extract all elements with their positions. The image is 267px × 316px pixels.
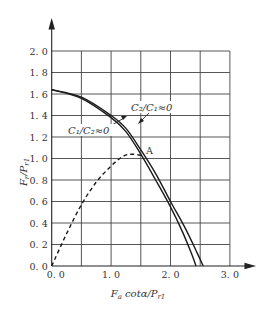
label-c2-c1: C₂/C₁≈0 <box>131 102 173 113</box>
y-tick-label: 0. 6 <box>30 196 48 207</box>
svg-text:Fa cotα/Pr1: Fa cotα/Pr1 <box>110 288 166 301</box>
y-axis-arrow-icon <box>49 20 54 29</box>
y-tick-label: 0. 8 <box>30 175 48 186</box>
chart: 0. 00. 20. 40. 60. 81. 01. 21. 41. 61. 8… <box>0 0 267 316</box>
x-axis-arrow-icon <box>245 264 254 269</box>
x-tick-label: 0. 0 <box>47 269 65 280</box>
y-tick-label: 1. 2 <box>30 132 48 143</box>
annotation-c2c1: C₂/C₁≈0 <box>129 101 181 124</box>
y-tick-label: 0. 2 <box>30 239 48 250</box>
grid <box>52 51 230 266</box>
x-tick-labels: 0. 01. 02. 03. 0 <box>47 269 239 280</box>
x-tick-label: 1. 0 <box>102 269 120 280</box>
curve-dashed <box>52 154 141 266</box>
y-tick-label: 1. 0 <box>30 153 48 164</box>
y-tick-label: 2. 0 <box>30 46 48 57</box>
curves <box>52 90 203 266</box>
curve-c2-c1-0 <box>52 90 203 266</box>
point-a-label: A <box>145 145 153 156</box>
x-tick-label: 3. 0 <box>221 269 239 280</box>
y-tick-label: 1. 6 <box>30 89 48 100</box>
y-tick-label: 1. 8 <box>30 67 48 78</box>
label-c1-c2: C₁/C₂≈0 <box>68 125 110 136</box>
y-tick-labels: 0. 00. 20. 40. 60. 81. 01. 21. 41. 61. 8… <box>30 46 48 272</box>
annotation-c1c2: C₁/C₂≈0 <box>66 116 127 136</box>
y-tick-label: 0. 4 <box>30 218 48 229</box>
y-tick-label: 1. 4 <box>30 110 48 121</box>
x-tick-label: 2. 0 <box>161 269 179 280</box>
x-axis-title: Fa cotα/Pr1 <box>110 288 166 301</box>
y-tick-label: 0. 0 <box>30 261 48 272</box>
